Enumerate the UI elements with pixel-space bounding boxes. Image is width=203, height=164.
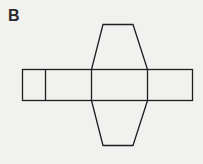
net-diagram: [0, 0, 203, 164]
bottom-face: [92, 101, 148, 146]
top-face: [92, 25, 148, 70]
strip-outline: [23, 70, 193, 101]
